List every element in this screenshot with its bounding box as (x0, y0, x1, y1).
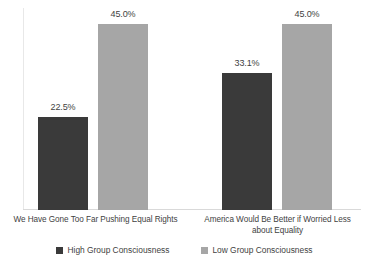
category-label-1-line-1: We Have Gone Too Far Pushing Equal Right… (13, 215, 177, 224)
y-axis-line (23, 8, 24, 210)
category-label-2: America Would Be Better if Worried Less … (190, 214, 365, 236)
legend-swatch-icon-high-group (56, 247, 63, 254)
plot-area: 22.5% 45.0% 33.1% 45.0% (0, 0, 369, 211)
legend-label-high-group: High Group Consciousness (67, 245, 169, 255)
chart-legend: High Group Consciousness Low Group Consc… (0, 242, 369, 258)
bar-value-label-high-category-1: 22.5% (33, 102, 93, 112)
bar-chart: 22.5% 45.0% 33.1% 45.0% We Have Gone Too… (0, 0, 369, 265)
bar-high-group-category-1[interactable] (38, 117, 88, 210)
category-label-1: We Have Gone Too Far Pushing Equal Right… (6, 214, 185, 225)
bar-value-label-high-category-2: 33.1% (217, 58, 277, 68)
bar-low-group-category-1[interactable] (98, 24, 148, 210)
legend-item-low-group[interactable]: Low Group Consciousness (201, 245, 312, 255)
category-label-2-line-1: America Would Be Better if Worried Less (204, 215, 351, 224)
bar-value-label-low-category-1: 45.0% (93, 9, 153, 19)
legend-label-low-group: Low Group Consciousness (212, 245, 312, 255)
bar-high-group-category-2[interactable] (222, 73, 272, 210)
legend-swatch-icon-low-group (201, 247, 208, 254)
category-label-2-line-2: about Equality (252, 226, 303, 235)
legend-item-high-group[interactable]: High Group Consciousness (56, 245, 169, 255)
category-axis-labels: We Have Gone Too Far Pushing Equal Right… (0, 212, 369, 240)
bar-low-group-category-2[interactable] (282, 24, 332, 210)
bar-value-label-low-category-2: 45.0% (277, 9, 337, 19)
